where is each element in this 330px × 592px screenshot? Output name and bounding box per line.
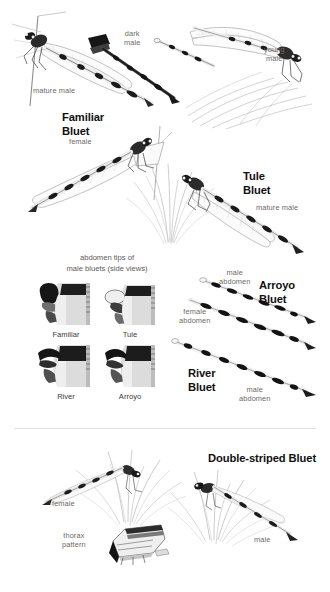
species-name-arroyo-bluet: Arroyo Bluet — [259, 278, 295, 306]
artwork-thorax-pattern — [103, 523, 173, 567]
label-abdomen-tip-river: River — [43, 392, 89, 401]
label-river-male-abdomen: male abdomen — [239, 385, 271, 404]
label-arroyo-male-abdomen: male abdomen — [219, 268, 251, 287]
artwork-abdomen-tip-river — [36, 343, 96, 389]
section-divider — [14, 428, 316, 429]
artwork-abdomen-tip-arroyo — [103, 343, 161, 389]
label-abdomen-tip-arroyo: Arroyo — [107, 392, 153, 401]
label-mature-male-familiar: mature male — [33, 86, 75, 95]
label-mature-male-tule: mature male — [256, 203, 298, 212]
label-young-male: young male — [264, 45, 285, 64]
artwork-familiar-young-male — [186, 12, 326, 130]
label-dark-male: dark male — [124, 29, 140, 48]
caption-abdomen-tips: abdomen tips of male bluets (side views) — [47, 253, 167, 274]
artwork-double-striped-female — [36, 440, 186, 530]
artwork-abdomen-tip-tule — [103, 283, 161, 327]
label-abdomen-tip-tule: Tule — [107, 330, 153, 339]
species-name-tule-bluet: Tule Bluet — [243, 169, 270, 197]
species-name-river-bluet: River Bluet — [188, 366, 216, 394]
label-thorax-pattern: thorax pattern — [62, 531, 86, 550]
label-abdomen-tip-familiar: Familiar — [43, 330, 89, 339]
artwork-abdomen-tip-familiar — [36, 281, 96, 327]
label-female-familiar: female — [69, 137, 92, 146]
label-double-striped-female: female — [52, 499, 75, 508]
label-arroyo-female-abdomen: female abdomen — [179, 307, 211, 326]
label-double-striped-male: male — [254, 535, 270, 544]
artwork-double-striped-male — [168, 462, 323, 554]
field-guide-plate: mature male dark male young male Familia… — [0, 0, 330, 592]
